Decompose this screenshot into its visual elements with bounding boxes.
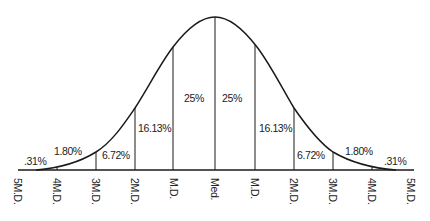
tick-label: 5M.D.: [12, 178, 24, 205]
pct-label: 25%: [222, 92, 242, 104]
tick-label: 5M.D.: [405, 178, 417, 205]
tick-label: M.D.: [249, 178, 261, 199]
bell-curve: [36, 17, 396, 170]
tick-label: 2M.D.: [129, 178, 141, 205]
pct-label: 1.80%: [54, 145, 82, 157]
tick-label: 3M.D.: [90, 178, 102, 205]
normal-curve-diagram: .31% 1.80% 6.72% 16.13% 25% 25% 16.13% 6…: [0, 0, 430, 221]
pct-label: 16.13%: [259, 122, 292, 134]
pct-label: 6.72%: [102, 149, 130, 161]
pct-label: 25%: [184, 92, 204, 104]
tick-label: 2M.D.: [288, 178, 300, 205]
tick-label: M.D.: [168, 178, 180, 199]
tick-label: 3M.D.: [327, 178, 339, 205]
pct-label: .31%: [384, 155, 406, 167]
tick-label: 4M.D.: [51, 178, 63, 205]
tick-label: 4M.D.: [366, 178, 378, 205]
pct-label: 6.72%: [297, 149, 325, 161]
tick-label: Med.: [209, 178, 221, 200]
pct-label: .31%: [24, 155, 46, 167]
pct-label: 1.80%: [345, 145, 373, 157]
pct-label: 16.13%: [138, 122, 171, 134]
